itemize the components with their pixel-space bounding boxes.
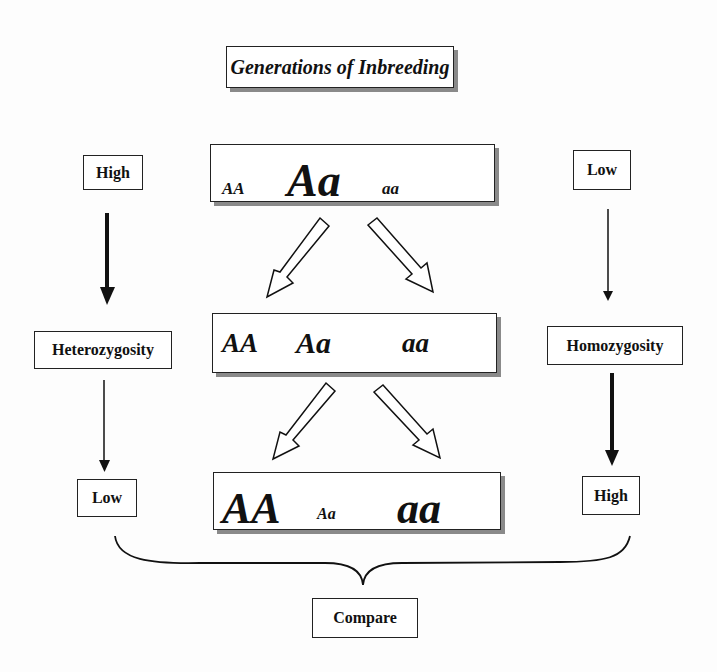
connectors	[0, 0, 717, 672]
left-thick-down-arrow-icon	[100, 213, 115, 305]
hollow-arrow-down-left-icon	[273, 383, 335, 459]
hollow-arrow-down-right-icon	[374, 385, 440, 458]
hollow-arrow-down-right-icon	[368, 218, 433, 292]
hollow-arrow-down-left-icon	[267, 218, 329, 297]
right-thick-down-arrow-icon	[605, 373, 619, 466]
right-thin-down-arrow-icon	[603, 209, 613, 301]
left-thin-down-arrow-icon	[99, 380, 110, 472]
compare-brace-icon	[115, 536, 630, 585]
